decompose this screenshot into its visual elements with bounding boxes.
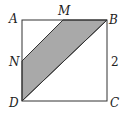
side-length-label: 2 [111,55,119,69]
label-m: M [57,4,71,18]
label-a: A [8,12,18,26]
geometry-diagram: A M B N 2 D C [0,0,125,113]
label-c: C [110,96,119,110]
label-b: B [108,13,118,27]
label-d: D [8,96,19,110]
label-n: N [8,55,20,69]
